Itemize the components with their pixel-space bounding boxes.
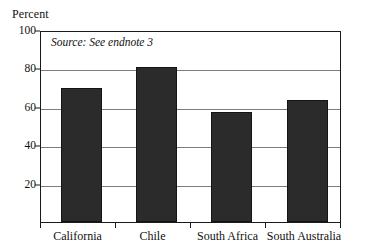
x-tick-mark-1 bbox=[115, 223, 116, 228]
x-label-chile: Chile bbox=[115, 229, 190, 243]
y-tick-label-80: 80 bbox=[6, 63, 36, 75]
y-tick-label-40: 40 bbox=[6, 140, 36, 152]
y-tick-mark-20 bbox=[35, 185, 40, 186]
y-tick-mark-80 bbox=[35, 69, 40, 70]
x-label-california: California bbox=[40, 229, 115, 243]
plot-area bbox=[40, 31, 341, 223]
y-tick-mark-60 bbox=[35, 108, 40, 109]
y-tick-label-20: 20 bbox=[6, 179, 36, 191]
bar-south-africa bbox=[211, 112, 252, 222]
y-tick-mark-100 bbox=[35, 31, 40, 32]
y-tick-label-100: 100 bbox=[6, 25, 36, 37]
bar-chart-figure: Percent Source: See endnote 3 100 80 60 … bbox=[0, 0, 365, 251]
bar-chile bbox=[136, 67, 177, 223]
source-note: Source: See endnote 3 bbox=[51, 36, 153, 49]
y-tick-mark-40 bbox=[35, 146, 40, 147]
x-tick-mark-3 bbox=[265, 223, 266, 228]
bar-south-australia bbox=[287, 100, 328, 222]
x-label-south-africa: South Africa bbox=[190, 229, 265, 243]
gridline-80 bbox=[41, 70, 340, 71]
x-tick-mark-2 bbox=[190, 223, 191, 228]
x-tick-mark-4 bbox=[340, 223, 341, 228]
x-tick-mark-0 bbox=[40, 223, 41, 228]
y-tick-label-60: 60 bbox=[6, 102, 36, 114]
bar-california bbox=[61, 88, 102, 222]
x-label-south-australia: South Australia bbox=[264, 229, 344, 243]
y-axis-title: Percent bbox=[12, 8, 49, 21]
